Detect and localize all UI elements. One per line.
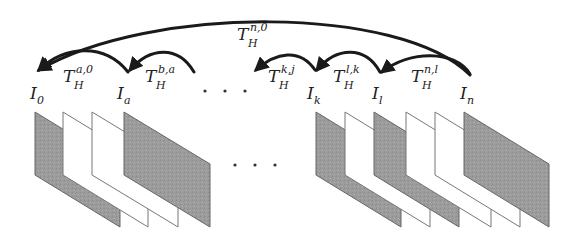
frame-group-left [35, 112, 210, 227]
svg-text:a,0: a,0 [76, 63, 93, 76]
node-label-Ik: I k [306, 83, 321, 107]
svg-text:b,a: b,a [158, 63, 175, 76]
svg-text:I: I [116, 83, 124, 103]
svg-text:l: l [379, 94, 383, 107]
node-label-Il: I l [371, 83, 383, 107]
svg-text:H: H [278, 79, 289, 92]
svg-text:a: a [124, 94, 131, 107]
svg-text:k: k [314, 94, 321, 107]
arrow-label-a0: T a,0 H [63, 63, 93, 92]
svg-text:l,k: l,k [346, 63, 360, 76]
arrow-label-nl: T n,l H [411, 63, 439, 92]
svg-text:k,j: k,j [281, 63, 295, 76]
arrow-label-ba: T b,a H [145, 63, 175, 92]
frame-group-right [316, 112, 549, 227]
svg-text:I: I [371, 83, 379, 103]
svg-text:I: I [306, 83, 314, 103]
ellipsis-arrows [203, 89, 246, 92]
node-label-In: I n [459, 83, 474, 107]
svg-text:H: H [421, 79, 432, 92]
svg-text:n,l: n,l [424, 63, 439, 76]
arrow-label-kj: T k,j H [268, 63, 295, 92]
svg-text:0: 0 [37, 94, 44, 107]
svg-text:H: H [73, 79, 84, 92]
ellipsis-frames [233, 163, 276, 166]
arrow-label-n0: T n,0 H [237, 21, 268, 50]
svg-text:H: H [247, 37, 258, 50]
svg-text:n,0: n,0 [250, 21, 268, 34]
arrow-label-lk: T l,k H [333, 63, 360, 92]
node-label-Ia: I a [116, 83, 131, 107]
svg-text:I: I [29, 83, 37, 103]
svg-text:n: n [467, 94, 474, 107]
svg-text:H: H [343, 79, 354, 92]
node-label-I0: I 0 [29, 83, 44, 107]
svg-text:H: H [155, 79, 166, 92]
homography-diagram: T n,0 H T a,0 H T b,a H T k,j H T l,k H … [0, 0, 577, 241]
svg-text:I: I [459, 83, 467, 103]
